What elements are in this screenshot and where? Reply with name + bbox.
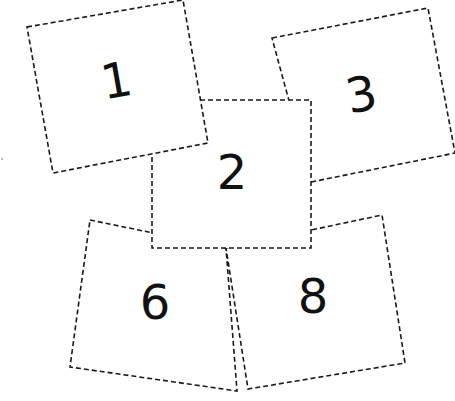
speck-mark [1, 158, 3, 160]
card-number: 6 [140, 274, 171, 330]
card-number: 8 [298, 268, 329, 324]
number-cards-canvas: 3 6 8 2 1 [0, 0, 455, 401]
card-1[interactable]: 1 [27, 0, 208, 173]
card-number: 2 [217, 144, 248, 200]
